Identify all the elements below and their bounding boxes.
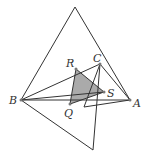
segment-bottom-c: [93, 64, 100, 150]
label-s: S: [107, 87, 115, 100]
segment-ca: [100, 64, 130, 100]
label-c: C: [93, 52, 102, 65]
label-q: Q: [64, 107, 73, 120]
segment-lower-a: [84, 100, 130, 107]
label-r: R: [65, 57, 74, 70]
label-b: B: [8, 94, 17, 107]
point-r: [75, 68, 78, 71]
point-q: [69, 103, 72, 106]
label-a: A: [132, 97, 141, 110]
segment-b-bottom: [21, 100, 93, 150]
point-b: [20, 99, 23, 102]
point-a: [129, 99, 132, 102]
geometry-diagram: A B C Q R S: [0, 0, 148, 158]
point-s: [103, 91, 106, 94]
